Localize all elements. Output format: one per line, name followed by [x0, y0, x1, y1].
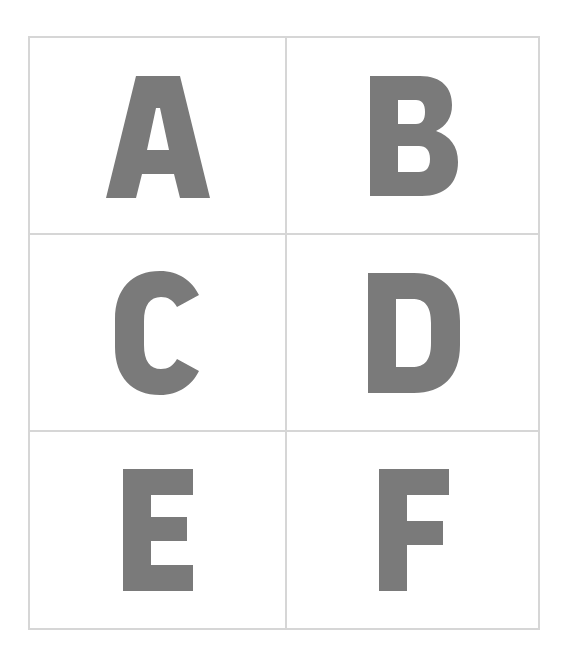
letter-d-glyph: [368, 271, 460, 395]
letter-e-glyph: [123, 469, 193, 591]
grid-cell-e[interactable]: E: [30, 432, 285, 628]
letter-f-glyph: [379, 469, 449, 591]
grid-cell-a[interactable]: A: [30, 38, 285, 233]
grid-cell-d[interactable]: D: [287, 235, 540, 430]
letter-c-glyph: [115, 271, 201, 395]
grid-cell-c[interactable]: C: [30, 235, 285, 430]
grid-cell-b[interactable]: B: [287, 38, 540, 233]
letter-b-glyph: [370, 74, 458, 198]
grid-cell-f[interactable]: F: [287, 432, 540, 628]
letter-grid: A B C D E F: [28, 36, 540, 630]
letter-a-glyph: [106, 74, 210, 198]
